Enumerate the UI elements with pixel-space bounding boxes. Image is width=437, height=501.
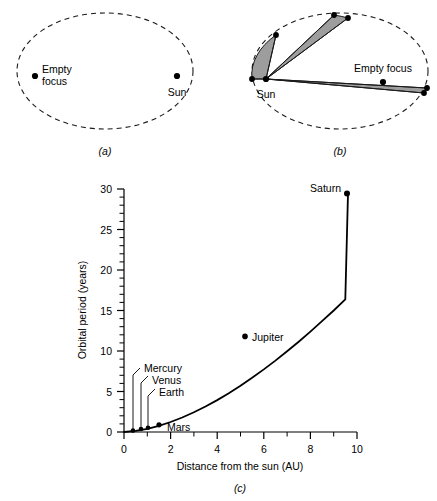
empty-focus-label-b: Empty focus xyxy=(354,62,412,74)
panel-c-chart: 0 5 10 15 20 25 30 0 2 4 6 8 10 Distance… xyxy=(76,182,363,494)
y-tick-label-0: 0 xyxy=(106,426,112,438)
caption-b: (b) xyxy=(334,145,347,157)
caption-c: (c) xyxy=(234,482,246,494)
planet-label-earth: Earth xyxy=(159,386,184,398)
x-tick-label-10: 10 xyxy=(351,443,363,455)
sun-label-b: Sun xyxy=(257,88,276,100)
y-tick-label-15: 15 xyxy=(100,305,112,317)
panel-a: Empty focus Sun (a) xyxy=(17,13,193,157)
y-tick-label-30: 30 xyxy=(100,183,112,195)
orbit-position-dot-4 xyxy=(345,15,351,21)
leader-line-earth xyxy=(148,389,155,428)
x-tick-label-0: 0 xyxy=(121,443,127,455)
x-axis-ticks xyxy=(124,432,357,439)
planet-label-mars: Mars xyxy=(167,421,190,433)
sun-dot-b xyxy=(263,76,269,82)
orbital-period-curve xyxy=(124,194,348,433)
y-tick-label-5: 5 xyxy=(106,386,112,398)
sun-label-a: Sun xyxy=(168,86,187,98)
y-axis-title: Orbital period (years) xyxy=(76,261,88,360)
y-tick-label-10: 10 xyxy=(100,345,112,357)
data-point-mars xyxy=(156,422,161,427)
data-point-saturn xyxy=(344,191,350,197)
data-point-venus xyxy=(139,427,144,432)
caption-a: (a) xyxy=(99,145,112,157)
empty-focus-dot-a xyxy=(32,73,38,79)
y-tick-label-20: 20 xyxy=(100,264,112,276)
planet-label-jupiter: Jupiter xyxy=(252,331,284,343)
figure-canvas: Empty focus Sun (a) Sun Empty focus xyxy=(0,0,437,501)
x-axis-title: Distance from the sun (AU) xyxy=(177,460,304,472)
empty-focus-label-line2: focus xyxy=(42,75,67,87)
y-axis-ticks xyxy=(117,189,124,432)
data-point-mercury xyxy=(131,428,136,433)
radius-vector-3b xyxy=(266,79,427,88)
orbit-position-dot-3 xyxy=(331,12,337,18)
orbit-position-dot-6 xyxy=(424,85,430,91)
radius-vector-3a xyxy=(266,79,424,93)
planet-label-venus: Venus xyxy=(152,374,181,386)
panel-b: Sun Empty focus (b) xyxy=(249,12,430,157)
leader-line-venus xyxy=(141,376,148,429)
kepler-laws-figure: Empty focus Sun (a) Sun Empty focus xyxy=(0,0,437,501)
orbit-position-dot-1 xyxy=(249,76,255,82)
y-tick-label-25: 25 xyxy=(100,224,112,236)
x-tick-label-4: 4 xyxy=(214,443,220,455)
x-tick-label-8: 8 xyxy=(307,443,313,455)
sun-dot-a xyxy=(174,73,180,79)
data-point-jupiter xyxy=(242,334,248,340)
orbit-position-dot-2 xyxy=(273,32,279,38)
x-tick-label-2: 2 xyxy=(168,443,174,455)
radius-vector-2b xyxy=(266,18,348,79)
x-tick-label-6: 6 xyxy=(261,443,267,455)
radius-vector-2a xyxy=(266,15,334,79)
planet-label-mercury: Mercury xyxy=(144,362,183,374)
leader-line-mercury xyxy=(133,368,140,431)
planet-label-saturn: Saturn xyxy=(310,182,341,194)
data-point-earth xyxy=(146,425,151,430)
empty-focus-dot-b xyxy=(380,79,386,85)
empty-focus-label-line1: Empty xyxy=(42,63,73,75)
orbit-position-dot-5 xyxy=(421,90,427,96)
